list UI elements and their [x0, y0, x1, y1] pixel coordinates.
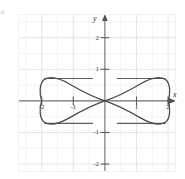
y-tick-label-pos1: 1: [87, 65, 99, 73]
x-tick-label-neg2: -2: [35, 103, 49, 111]
x-tick-label-pos1: 1: [130, 103, 144, 111]
axis-arrows: [102, 14, 176, 104]
y-tick-label-pos2: 2: [87, 34, 99, 42]
x-tick-label-neg1: -1: [66, 103, 80, 111]
y-tick-label-neg2: -2: [85, 160, 99, 168]
plot-area: -2 -1 1 2 2 1 -1 -2: [18, 14, 176, 172]
y-axis-label: y: [93, 14, 97, 23]
lemniscate-figure: c:: [0, 0, 185, 179]
y-axis-arrow: [102, 14, 108, 21]
x-axis-label: x: [173, 90, 177, 99]
y-tick-label-neg1: -1: [85, 128, 99, 136]
margin-annotation: c:: [1, 9, 5, 16]
x-tick-label-pos2: 2: [161, 103, 175, 111]
